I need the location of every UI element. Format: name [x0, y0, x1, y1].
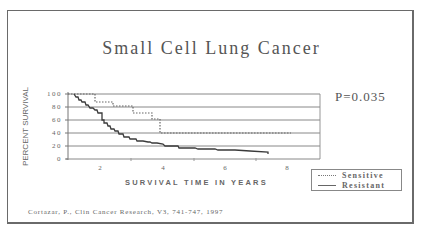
plot-area	[0, 0, 423, 237]
dotted-line-swatch-icon	[318, 175, 336, 176]
legend-label: Sensitive	[342, 171, 384, 180]
resistant-curve	[74, 94, 268, 154]
legend-item-sensitive: Sensitive	[318, 171, 384, 180]
solid-line-swatch-icon	[318, 185, 336, 186]
legend-item-resistant: Resistant	[318, 181, 385, 190]
citation: Cortazar, P., Clin Cancer Research, V3, …	[28, 208, 223, 216]
legend-label: Resistant	[342, 181, 385, 190]
x-tick-6: 6	[220, 164, 230, 172]
x-tick-8: 8	[282, 164, 292, 172]
x-tick-2: 2	[95, 164, 105, 172]
x-axis-label: SURVIVAL TIME IN YEARS	[125, 178, 268, 187]
x-tick-4: 4	[158, 164, 168, 172]
legend: Sensitive Resistant	[311, 169, 402, 191]
